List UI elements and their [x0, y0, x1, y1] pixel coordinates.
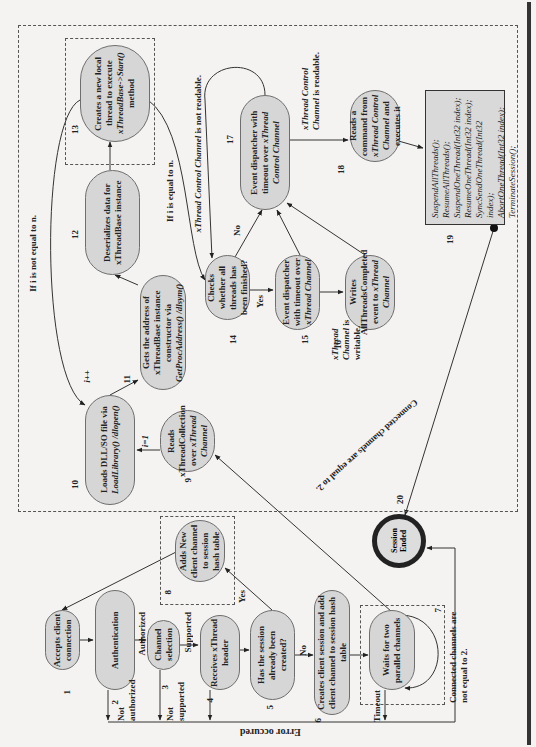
node-18-reads-command: Reads a command from xThread Control Cha… — [350, 90, 400, 162]
node-19-command-list: SuspendAllThreads(); ResumeAllThreads();… — [425, 90, 505, 225]
node-17-event-dispatcher-control: Event dispatcher with timeout over xThre… — [240, 95, 290, 210]
node-number: 9 — [183, 478, 193, 483]
node-number: 10 — [70, 480, 80, 489]
label-control-readable: xThread Control Channel is readable. — [300, 50, 324, 130]
node-number: 15 — [300, 335, 310, 344]
node-4-receives-header: Receives xThread header — [200, 615, 240, 690]
node-9-reads-xthreadcollection: Reads xThreadCollection over xThread Cha… — [160, 410, 215, 472]
node-6-creates-client-session: Creates client session and add client ch… — [314, 590, 350, 715]
label-control-not-readable: xThread Control Channel is not readable. — [193, 75, 204, 232]
node-number: 20 — [395, 495, 405, 504]
label-timeout: Timeout — [372, 690, 383, 722]
label-no-session: No — [298, 645, 309, 656]
node-14-checks-threads-finished: Checks whether all threads has been fini… — [205, 255, 250, 320]
node-8-adds-client-channel: Adds New client channel to session hash … — [175, 520, 225, 582]
node-number: 18 — [336, 165, 346, 174]
label-i-not-equal-n: If i is not equal to n. — [28, 215, 39, 292]
node-5-session-created-check: Has the session already been created? — [250, 610, 295, 700]
label-error-occured-bottom: Error occured — [240, 727, 301, 738]
node-number: 5 — [265, 705, 275, 710]
node-20-session-ended: Session Ended — [372, 514, 426, 568]
node-number: 8 — [163, 590, 173, 595]
node-number: 1 — [62, 690, 72, 695]
node-number: 13 — [70, 125, 80, 134]
label-i-equal-n: If i is equal to n. — [165, 160, 176, 222]
node-7-waits-parallel-channels: Waits for two parallel channels — [369, 610, 415, 690]
label-connected-not-2: Connected channels are not equal to 2. — [448, 608, 472, 703]
node-15-event-dispatcher-channel: Event dispatcher with timeout over xThre… — [275, 255, 320, 330]
node-13-creates-local-thread: Creates a new local thread to execute xT… — [80, 45, 150, 142]
label-authorized: Authorized — [137, 612, 148, 656]
flowchart-canvas: Accepts client connection Authentication… — [0, 0, 536, 747]
node-12-deserializes-data: Deserializes data for xThreadBase instan… — [85, 170, 140, 275]
node-number: 19 — [445, 235, 455, 244]
label-no-finished: No — [232, 225, 243, 236]
label-not-supported: Not supported — [165, 685, 189, 721]
node-number: 7 — [433, 608, 443, 613]
node-number: 6 — [313, 718, 323, 723]
node-10-loads-dll: Loads DLL/SO file via LoadLibrary() /dlo… — [85, 395, 135, 505]
label-yes-finished: Yes — [255, 295, 266, 308]
label-channel-writable: xThread Channel is writable. — [330, 300, 354, 360]
node-11-gets-constructor-address: Gets the address of xThreadBase instance… — [140, 275, 186, 390]
node-number: 17 — [225, 135, 235, 144]
node-number: 12 — [70, 230, 80, 239]
label-i-equal-1: i=1 — [140, 435, 151, 447]
label-yes-session: Yes — [237, 590, 248, 603]
node-number: 14 — [228, 335, 238, 344]
node-number: 4 — [205, 698, 215, 703]
label-supported: Supported — [183, 612, 194, 653]
node-3-channel-selection: Channel selection — [147, 620, 180, 670]
node-2-authentication: Authentication — [95, 590, 135, 690]
label-not-authorized: Not authorized — [116, 685, 140, 721]
node-number: 11 — [122, 375, 132, 384]
node-1-accepts-connection: Accepts client connection — [45, 610, 80, 670]
label-i-increment: i++ — [82, 370, 93, 383]
